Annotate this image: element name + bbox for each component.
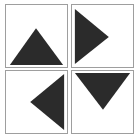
triangle-down-shape (75, 73, 130, 110)
grid-cell-top-left[interactable] (5, 4, 68, 68)
triangle-up-icon (6, 5, 67, 67)
triangle-down-icon (72, 71, 133, 133)
figure-root (0, 0, 139, 138)
triangle-right-icon (72, 5, 133, 67)
grid-cell-bottom-left[interactable] (5, 70, 68, 134)
triangle-right-shape (75, 9, 109, 64)
grid-cell-bottom-right[interactable] (71, 70, 134, 134)
triangle-left-shape (30, 74, 64, 130)
triangle-up-shape (10, 28, 63, 65)
triangle-left-icon (6, 71, 67, 133)
triangle-grid (5, 4, 134, 134)
grid-cell-top-right[interactable] (71, 4, 134, 68)
